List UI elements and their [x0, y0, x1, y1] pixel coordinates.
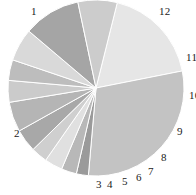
pie-slice-label-6: 6	[136, 172, 142, 183]
pie-chart-svg	[0, 0, 196, 195]
pie-slice-label-7: 7	[148, 166, 154, 177]
pie-slice-label-11: 11	[186, 52, 196, 63]
pie-slice-2	[88, 71, 184, 176]
pie-slice-label-5: 5	[122, 176, 128, 187]
pie-slice-label-2: 2	[14, 128, 20, 139]
pie-slice-label-10: 10	[189, 90, 196, 101]
pie-slice-label-8: 8	[161, 152, 167, 163]
pie-slice-label-9: 9	[177, 126, 183, 137]
pie-slice-label-4: 4	[107, 179, 113, 190]
pie-slice-label-3: 3	[96, 179, 102, 190]
pie-slices-group	[8, 0, 184, 176]
pie-slice-label-1: 1	[31, 6, 37, 17]
pie-slice-label-12: 12	[159, 6, 171, 17]
pie-chart-figure: 1 2 3 4 5 6 7 8 9 10 11 12	[0, 0, 196, 195]
